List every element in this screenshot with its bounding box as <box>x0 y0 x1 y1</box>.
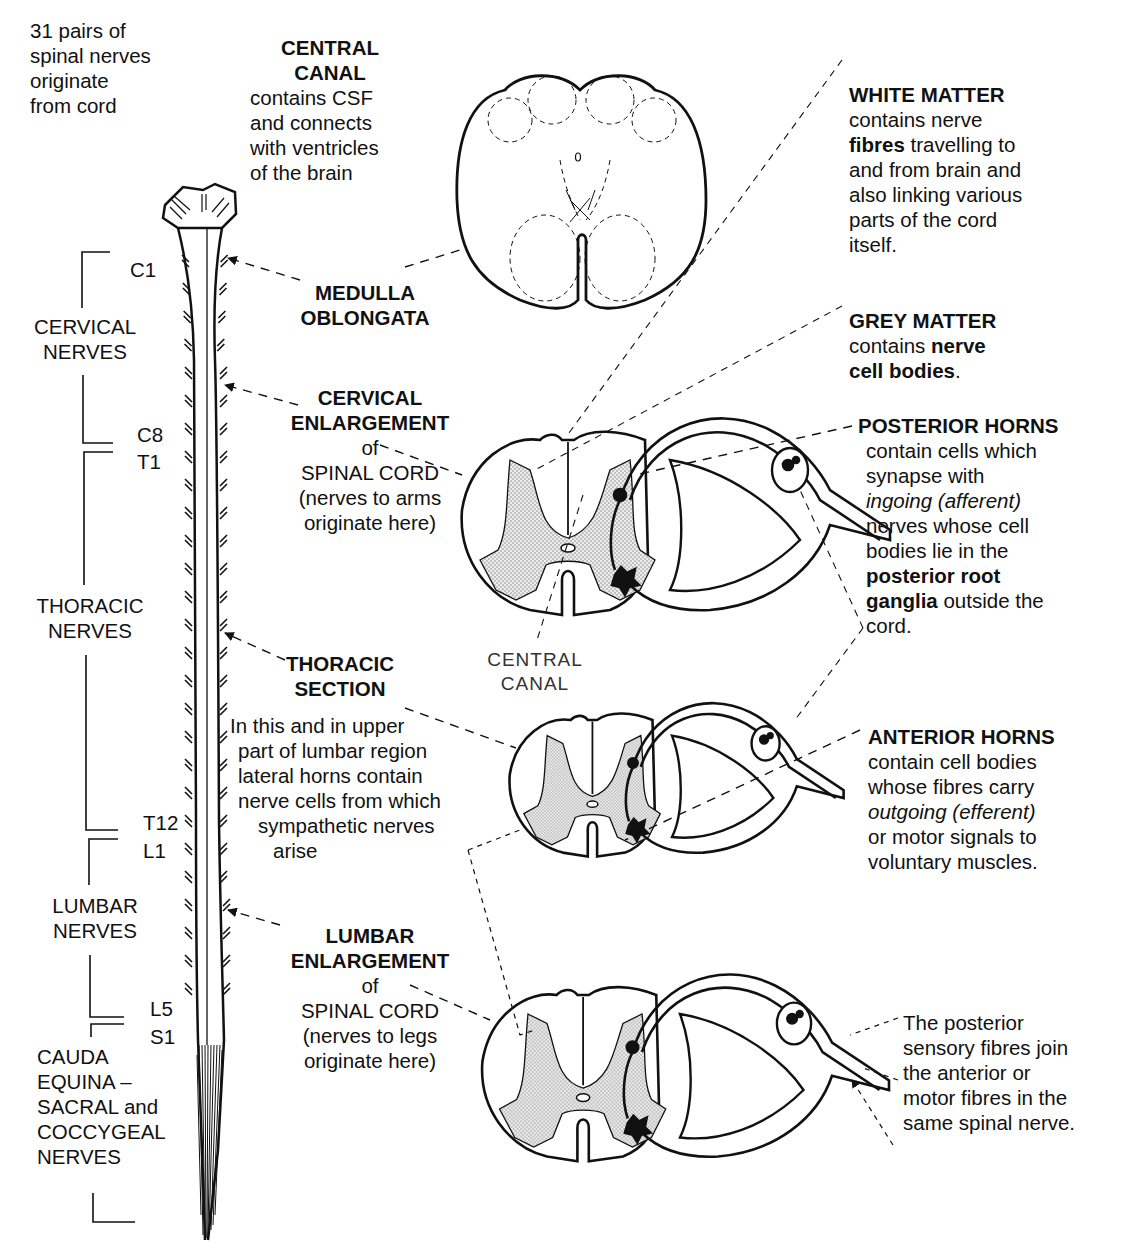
segment-t1-label: T1 <box>137 449 161 474</box>
callout-text: part of lumbar region <box>238 738 441 763</box>
callout-text-rest: outside the <box>938 589 1044 612</box>
callout-text: and from brain and <box>849 157 1022 182</box>
intro-line: 31 pairs of <box>30 18 151 43</box>
bold-term: nerve <box>931 334 986 357</box>
callout-title: SECTION <box>265 676 415 701</box>
callout-text: ganglia outside the <box>866 588 1058 613</box>
callout-text-rest: . <box>955 359 961 382</box>
callout-text: originate here) <box>280 1048 460 1073</box>
callout-text: CANAL <box>470 672 600 696</box>
callout-text: of the brain <box>250 160 415 185</box>
callout-title: LUMBAR <box>280 923 460 948</box>
group-label-line: SACRAL and <box>37 1094 166 1119</box>
callout-text: whose fibres carry <box>868 774 1055 799</box>
callout-text: nerves whose cell <box>866 513 1058 538</box>
anterior-horns-callout: ANTERIOR HORNS contain cell bodies whose… <box>868 724 1055 874</box>
callout-text: The posterior <box>903 1010 1075 1035</box>
callout-title: ENLARGEMENT <box>270 410 470 435</box>
callout-text-plain: contains <box>849 334 931 357</box>
segment-s1-label: S1 <box>150 1024 175 1049</box>
group-label-line: NERVES <box>37 1144 166 1169</box>
callout-title: CERVICAL <box>270 385 470 410</box>
callout-title: THORACIC <box>265 651 415 676</box>
thoracic-section-note: In this and in upper part of lumbar regi… <box>230 713 441 863</box>
cauda-equina-strands <box>197 1045 222 1238</box>
callout-text: of <box>280 973 460 998</box>
group-label-line: THORACIC <box>20 593 160 618</box>
callout-text: CENTRAL <box>470 648 600 672</box>
bold-term: posterior root <box>866 563 1058 588</box>
cauda-equina-label: CAUDA EQUINA – SACRAL and COCCYGEAL NERV… <box>37 1044 166 1169</box>
group-label-line: LUMBAR <box>25 893 165 918</box>
callout-title: CENTRAL <box>245 35 415 60</box>
lumbar-enlargement-callout: LUMBAR ENLARGEMENT of SPINAL CORD (nerve… <box>280 923 460 1073</box>
callout-text: same spinal nerve. <box>903 1110 1075 1135</box>
callout-text: the anterior or <box>903 1060 1075 1085</box>
callout-text: In this and in upper <box>230 713 441 738</box>
italic-term: ingoing (afferent) <box>866 488 1058 513</box>
callout-title: OBLONGATA <box>290 305 440 330</box>
callout-text: SPINAL CORD <box>280 998 460 1023</box>
intro-line: originate <box>30 68 151 93</box>
callout-text: with ventricles <box>250 135 415 160</box>
callout-text: parts of the cord <box>849 207 1022 232</box>
group-label-line: CAUDA <box>37 1044 166 1069</box>
group-label-line: NERVES <box>20 618 160 643</box>
callout-text: arise <box>273 838 441 863</box>
callout-text: originate here) <box>270 510 470 535</box>
callout-text: contains nerve <box>849 333 996 358</box>
intro-line: from cord <box>30 93 151 118</box>
thoracic-section-title: THORACIC SECTION <box>265 651 415 701</box>
callout-title: MEDULLA <box>290 280 440 305</box>
intro-note: 31 pairs of spinal nerves originate from… <box>30 18 151 118</box>
callout-text: SPINAL CORD <box>270 460 470 485</box>
italic-term: outgoing (efferent) <box>868 799 1055 824</box>
bold-term: cell bodies <box>849 359 955 382</box>
segment-c8-label: C8 <box>137 422 163 447</box>
posterior-horns-callout: POSTERIOR HORNS contain cells which syna… <box>858 413 1058 638</box>
segment-l5-label: L5 <box>150 996 173 1021</box>
callout-text: nerve cells from which <box>238 788 441 813</box>
nerve-root-ticks <box>182 255 230 995</box>
group-label-line: EQUINA – <box>37 1069 166 1094</box>
grey-matter-callout: GREY MATTER contains nerve cell bodies. <box>849 308 996 383</box>
cord-cross-sections <box>462 418 890 1161</box>
thoracic-nerves-label: THORACIC NERVES <box>20 593 160 643</box>
segment-t12-label: T12 <box>143 810 178 835</box>
callout-text: motor fibres in the <box>903 1085 1075 1110</box>
callout-text: synapse with <box>866 463 1058 488</box>
callout-title: WHITE MATTER <box>849 82 1022 107</box>
callout-text: fibres travelling to <box>849 132 1022 157</box>
callout-text: voluntary muscles. <box>868 849 1055 874</box>
callout-text: contain cell bodies <box>868 749 1055 774</box>
callout-text: contains CSF <box>250 85 415 110</box>
callout-text: (nerves to legs <box>280 1023 460 1048</box>
bold-term: fibres <box>849 133 905 156</box>
callout-text: of <box>270 435 470 460</box>
callout-text: bodies lie in the <box>866 538 1058 563</box>
callout-text: itself. <box>849 232 1022 257</box>
medulla-cross-section <box>457 76 706 309</box>
cervical-nerves-label: CERVICAL NERVES <box>20 314 150 364</box>
callout-text: sympathetic nerves <box>258 813 441 838</box>
group-label-line: NERVES <box>25 918 165 943</box>
bold-term: ganglia <box>866 589 938 612</box>
group-label-line: NERVES <box>20 339 150 364</box>
callout-text: cell bodies. <box>849 358 996 383</box>
lumbar-nerves-label: LUMBAR NERVES <box>25 893 165 943</box>
callout-text: sensory fibres join <box>903 1035 1075 1060</box>
cord-left-edge <box>178 228 205 1240</box>
callout-text: or motor signals to <box>868 824 1055 849</box>
callout-title: GREY MATTER <box>849 308 996 333</box>
callout-title: POSTERIOR HORNS <box>858 413 1058 438</box>
central-canal-callout: CENTRAL CANAL contains CSF and connects … <box>245 35 415 185</box>
callout-text: and connects <box>250 110 415 135</box>
callout-title: ENLARGEMENT <box>280 948 460 973</box>
callout-text: contain cells which <box>866 438 1058 463</box>
callout-text-rest: travelling to <box>905 133 1016 156</box>
white-matter-callout: WHITE MATTER contains nerve fibres trave… <box>849 82 1022 257</box>
central-canal-label: CENTRAL CANAL <box>470 648 600 696</box>
callout-text: contains nerve <box>849 107 1022 132</box>
medulla-cap <box>163 184 236 228</box>
spinal-cord-drawing <box>163 184 236 1240</box>
